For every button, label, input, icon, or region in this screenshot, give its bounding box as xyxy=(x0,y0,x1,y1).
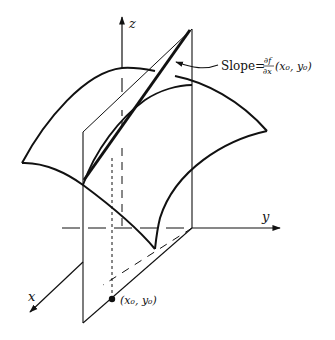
z-axis-label: z xyxy=(128,16,136,31)
slope-denominator: ∂x xyxy=(263,67,272,76)
partial-derivative-diagram: z y x (x₀, y₀) Slope= ∂f ∂x (x₀, y₀) xyxy=(0,0,335,340)
slicing-plane xyxy=(83,29,192,323)
point-label: (x₀, y₀) xyxy=(120,294,157,307)
y-axis-label: y xyxy=(261,209,270,224)
x-axis-label: x xyxy=(28,289,36,304)
surface-back-edge xyxy=(22,68,155,163)
slope-pointer-arrow xyxy=(176,62,218,68)
base-point xyxy=(109,296,115,302)
trace-curve xyxy=(83,85,192,185)
slope-label: Slope= ∂f ∂x (x₀, y₀) xyxy=(221,56,312,76)
surface-right-edge xyxy=(155,131,267,249)
slope-numerator: ∂f xyxy=(264,56,273,65)
slope-prefix: Slope= xyxy=(221,59,265,73)
tangent-line xyxy=(84,30,190,180)
slope-args: (x₀, y₀) xyxy=(275,60,312,73)
